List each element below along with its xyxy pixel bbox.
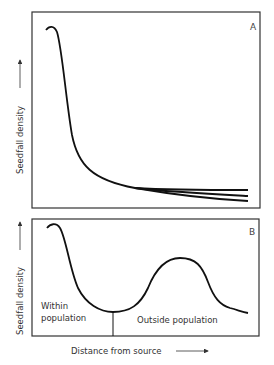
within-label-2: population [41,313,86,323]
curve-a-1 [46,27,248,190]
within-label-1: Within [41,301,68,311]
panel-a-label: A [250,22,257,32]
x-axis-label: Distance from source [71,346,162,356]
panel-b-label: B [249,227,255,237]
y-axis-label-b: Seedfall density [15,222,25,335]
panel-a-frame [32,12,260,208]
y-axis-label-a: Seedfall density [15,60,25,174]
curve-b [47,224,248,313]
panel-b: B Within population Outside population S… [15,219,259,336]
outside-label: Outside population [137,315,218,325]
figure: A Seedfall density B Within population O… [0,0,274,365]
x-axis-label-group: Distance from source [71,346,208,356]
y-label-a: Seedfall density [15,106,25,174]
y-label-b: Seedfall density [15,267,25,335]
panel-a-curves [46,27,248,201]
panel-a: A Seedfall density [15,12,260,208]
